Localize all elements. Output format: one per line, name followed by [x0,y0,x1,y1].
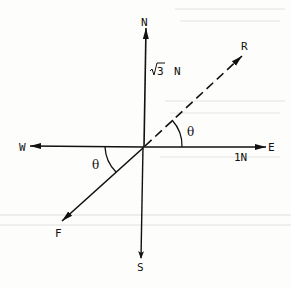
south-label: S [137,261,144,274]
force-f-vector [62,148,143,221]
north-label: N [141,16,148,29]
north-magnitude-value: 3 [157,65,164,78]
force-f-label: F [55,227,62,240]
north-axis-arrow [144,28,146,147]
west-label: W [19,141,26,154]
theta-lower-label: θ [92,158,99,172]
north-magnitude-unit: N [174,65,181,78]
theta-arc-upper [172,120,182,147]
force-diagram: N S E W 3 N 1N R F θ θ [0,0,291,288]
east-label: E [268,141,275,154]
south-axis-arrow [141,147,143,258]
resultant-label: R [241,40,248,53]
north-magnitude-label: 3 N [150,63,181,78]
theta-upper-label: θ [187,125,194,139]
east-magnitude-label: 1N [234,151,247,164]
west-axis-arrow [30,146,143,147]
theta-arc-lower [105,147,116,172]
